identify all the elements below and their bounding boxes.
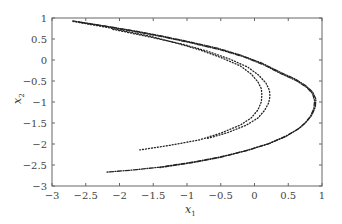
y-axis-ticks: 10.50−0.5−1−1.5−2−2.5−3: [23, 13, 322, 192]
x-tick-label: −2: [112, 190, 127, 201]
x-tick-label: −2.5: [74, 190, 98, 201]
y-tick-label: −2.5: [23, 160, 47, 171]
y-tick-label: 0.5: [31, 34, 47, 45]
trajectory-curve: [79, 22, 315, 167]
y-tick-label: −1.5: [23, 118, 47, 129]
y-tick-label: −1: [32, 97, 47, 108]
x-axis-label: x1: [185, 203, 196, 218]
y-tick-label: −0.5: [23, 76, 47, 87]
phase-portrait-chart: −3−2.5−2−1.5−1−0.500.51 10.50−0.5−1−1.5−…: [0, 0, 342, 224]
y-axis-label: x2: [11, 93, 26, 104]
trajectory-layer: [73, 21, 316, 172]
x-tick-label: 0.5: [280, 190, 296, 201]
plot-frame: [52, 18, 322, 186]
x-tick-label: −1.5: [141, 190, 165, 201]
x-tick-label: −3: [45, 190, 60, 201]
y-tick-label: 1: [41, 13, 47, 24]
x-tick-label: −0.5: [209, 190, 233, 201]
y-tick-label: −2: [32, 139, 47, 150]
x-tick-label: 0: [251, 190, 257, 201]
y-tick-label: 0: [41, 55, 47, 66]
x-tick-label: 1: [319, 190, 325, 201]
trajectory-curve: [113, 29, 270, 138]
y-tick-label: −3: [32, 181, 47, 192]
x-tick-label: −1: [180, 190, 195, 201]
